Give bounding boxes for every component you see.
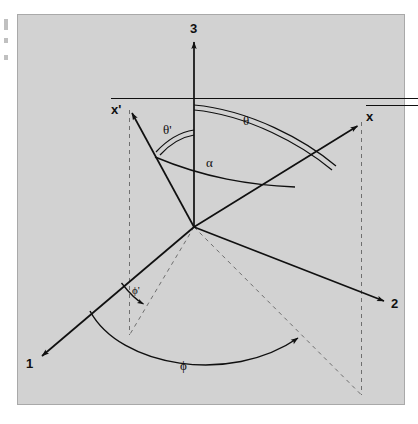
angle-phi-arc xyxy=(90,311,298,365)
figure-root: 3 1 2 x x' θ θ' α ϕ ϕ' xyxy=(0,0,418,424)
axis-2-line xyxy=(194,227,384,301)
coordinate-axes xyxy=(42,42,384,356)
angle-phi-label: ϕ xyxy=(180,359,187,372)
guide-x-ground xyxy=(194,227,362,395)
diagram-canvas xyxy=(0,0,418,424)
vector-arrow-overbar-icon xyxy=(111,98,418,99)
angle-theta-prime-label: θ' xyxy=(163,123,172,136)
axis-3-label: 3 xyxy=(190,22,197,35)
prime-mark: ' xyxy=(118,102,121,117)
axis-1-label: 1 xyxy=(26,357,33,370)
axis-2-label: 2 xyxy=(391,297,398,310)
axis-1-line xyxy=(42,227,194,356)
vector-x-line xyxy=(194,126,358,227)
angle-theta-label: θ xyxy=(243,114,249,127)
angle-theta-prime-arc xyxy=(156,130,194,155)
guide-x-prime-ground xyxy=(130,227,195,335)
angle-alpha-arc xyxy=(155,157,295,187)
angle-phi-prime-label: ϕ' xyxy=(132,285,140,296)
vector-x-prime-label: x' xyxy=(111,103,418,116)
angle-alpha-label: α xyxy=(206,156,213,169)
